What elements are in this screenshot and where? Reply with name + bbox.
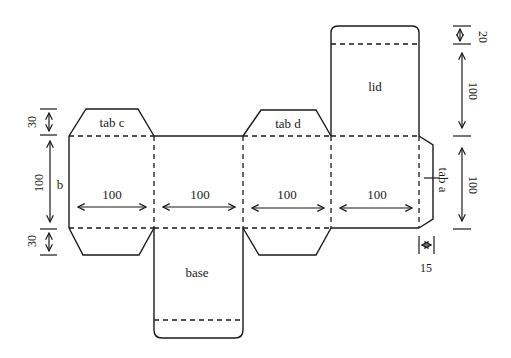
tab-b-label: b (57, 177, 64, 192)
tab-a-label: tab a (436, 168, 451, 193)
right-lid-flap-dim: 20 (476, 31, 490, 43)
face-1-with-tabs (69, 109, 154, 255)
right-dimensions (419, 26, 471, 254)
face-1-width-label: 100 (102, 187, 122, 202)
tab-c-label: tab c (100, 115, 125, 130)
right-lid-height-dim: 100 (466, 82, 480, 100)
lid-label: lid (368, 79, 382, 94)
width-dimensions (78, 207, 412, 208)
box-net-diagram: tab c tab d lid base b tab a 100 100 100… (0, 0, 511, 358)
left-top-tab-dim: 30 (25, 116, 39, 128)
face-3-width-label: 100 (277, 187, 297, 202)
face-2-width-label: 100 (190, 187, 210, 202)
tab-d-label: tab d (275, 116, 301, 131)
left-bottom-tab-dim: 30 (25, 235, 39, 247)
face-4-width-label: 100 (367, 187, 387, 202)
face-2-with-base (154, 136, 243, 338)
face-3-with-tabs (243, 110, 331, 255)
tab-a-width-dim: 15 (420, 261, 432, 275)
left-height-dim: 100 (32, 174, 46, 192)
base-label: base (185, 265, 208, 280)
right-face-height-dim: 100 (466, 176, 480, 194)
